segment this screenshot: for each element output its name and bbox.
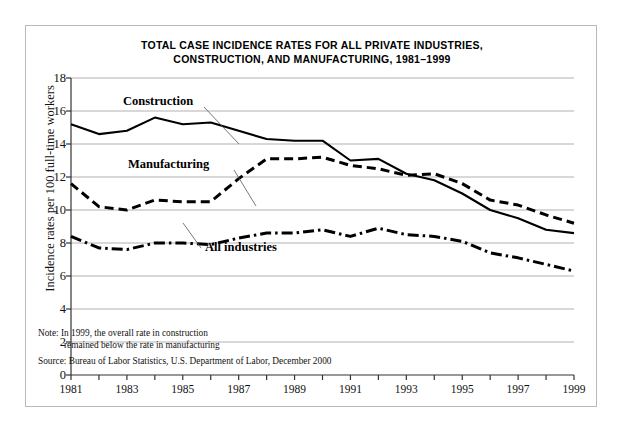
series-label-all-industries: All industries [205, 240, 277, 255]
x-tick-label: 1995 [451, 383, 474, 395]
y-tick-label: 0 [60, 368, 66, 383]
annotation-leader-line [234, 170, 256, 206]
y-tick-label: 16 [54, 104, 67, 119]
series-label-manufacturing: Manufacturing [128, 157, 209, 172]
chart-note: Note: In 1999, the overall rate in const… [38, 328, 458, 351]
x-tick-label: 1993 [395, 383, 418, 395]
x-tick-label: 1989 [283, 383, 306, 395]
x-tick-label: 1997 [507, 383, 530, 395]
y-tick-label: 10 [54, 203, 67, 218]
x-tick-label: 1999 [563, 383, 586, 395]
chart-title-line-2: CONSTRUCTION, AND MANUFACTURING, 1981–19… [173, 53, 450, 65]
y-tick-label: 4 [60, 302, 66, 317]
x-tick-label: 1991 [339, 383, 362, 395]
y-tick-label: 8 [60, 236, 66, 251]
figure-frame: TOTAL CASE INCIDENCE RATES FOR ALL PRIVA… [25, 25, 597, 407]
series-label-construction: Construction [123, 94, 193, 109]
annotation-leader-line [204, 107, 239, 144]
x-tick-label: 1985 [171, 383, 194, 395]
y-tick-label: 12 [54, 170, 67, 185]
y-tick-label: 6 [60, 269, 66, 284]
chart-note-line-2: remained below the rate in manufacturing [38, 340, 458, 352]
series-line-construction [71, 118, 574, 234]
chart-title-line-1: TOTAL CASE INCIDENCE RATES FOR ALL PRIVA… [141, 39, 483, 51]
chart-title: TOTAL CASE INCIDENCE RATES FOR ALL PRIVA… [26, 38, 598, 66]
x-tick-label: 1987 [227, 383, 250, 395]
chart-source: Source: Bureau of Labor Statistics, U.S.… [38, 356, 558, 368]
x-tick-label: 1983 [115, 383, 138, 395]
chart-note-line-1: Note: In 1999, the overall rate in const… [38, 328, 208, 338]
y-tick-label: 18 [54, 71, 67, 86]
series-line-all-industries [71, 228, 574, 271]
y-tick-label: 14 [54, 137, 67, 152]
x-tick-label: 1981 [60, 383, 83, 395]
